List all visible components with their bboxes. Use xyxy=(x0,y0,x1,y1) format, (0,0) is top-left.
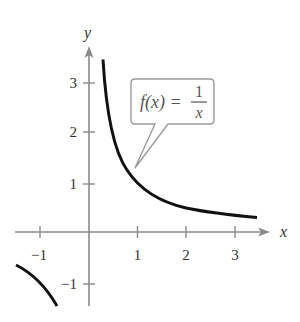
y-tick-label: −1 xyxy=(61,276,77,292)
x-tick-label: 2 xyxy=(182,247,190,263)
function-callout: f(x) = 1 x xyxy=(131,79,214,168)
x-tick-label: 3 xyxy=(231,247,239,263)
callout-numerator: 1 xyxy=(195,83,203,100)
function-graph: −1 1 2 3 3 2 1 −1 x y f(x) = 1 x xyxy=(0,0,300,322)
y-tick-label: 2 xyxy=(70,124,78,140)
y-tick-label: 3 xyxy=(70,75,78,91)
x-tick-label: 1 xyxy=(134,247,142,263)
y-tick-label: 1 xyxy=(70,176,78,192)
x-axis-label: x xyxy=(279,223,287,240)
curve-negative-branch xyxy=(16,265,57,306)
x-tick-label: −1 xyxy=(31,247,47,263)
callout-denominator: x xyxy=(194,104,202,121)
callout-lhs: f(x) = xyxy=(140,92,182,113)
y-axis-label: y xyxy=(82,24,92,42)
